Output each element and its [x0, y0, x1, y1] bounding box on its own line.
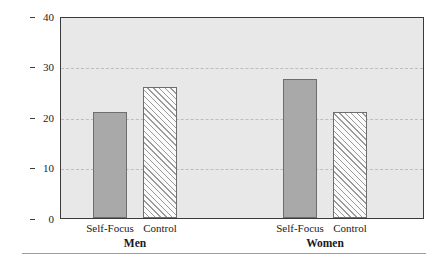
bar-women-control[interactable]	[333, 112, 367, 218]
x-tick-label-women-control: Control	[315, 221, 385, 235]
x-axis-labels: Self-Focus Control Self-Focus Control	[0, 221, 440, 237]
group-label-women: Women	[290, 236, 360, 250]
y-tick-mark-10	[30, 168, 35, 169]
y-tick-mark-40	[30, 17, 35, 18]
y-tick-mark-0	[30, 219, 35, 220]
plot-area	[60, 17, 424, 219]
group-label-men: Men	[100, 236, 170, 250]
bottom-divider-rule	[22, 253, 426, 254]
bar-chart-figure: Private Self-Consciousness Score 40 30 2…	[0, 0, 440, 262]
bar-women-self-focus[interactable]	[283, 79, 317, 218]
x-tick-label-men-control: Control	[125, 221, 195, 235]
gridline-30	[61, 68, 423, 70]
y-tick-mark-30	[30, 67, 35, 68]
bar-men-self-focus[interactable]	[93, 112, 127, 218]
group-labels: Men Women	[0, 236, 440, 252]
bar-men-control[interactable]	[143, 87, 177, 218]
y-tick-mark-20	[30, 118, 35, 119]
